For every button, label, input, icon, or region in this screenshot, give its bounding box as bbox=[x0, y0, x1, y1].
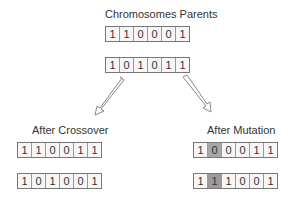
arrow-to-mutation-icon bbox=[183, 75, 211, 112]
gene-cell: 1 bbox=[74, 143, 88, 157]
gene-cell: 0 bbox=[46, 143, 60, 157]
crossover-chromosome-2: 1 0 1 0 0 1 bbox=[17, 173, 102, 189]
mutation-chromosome-1: 1 0 0 0 1 1 bbox=[193, 142, 278, 158]
gene-cell: 1 bbox=[264, 174, 277, 188]
gene-cell: 1 bbox=[18, 174, 32, 188]
crossover-chromosome-1: 1 1 0 0 1 1 bbox=[17, 142, 102, 158]
gene-cell: 1 bbox=[250, 143, 264, 157]
gene-cell: 1 bbox=[222, 174, 236, 188]
gene-cell: 1 bbox=[194, 174, 208, 188]
gene-cell: 1 bbox=[264, 143, 277, 157]
gene-cell: 0 bbox=[74, 174, 88, 188]
mutated-gene-cell: 1 bbox=[208, 174, 222, 188]
gene-cell: 0 bbox=[32, 174, 46, 188]
gene-cell: 1 bbox=[88, 174, 101, 188]
arrow-to-crossover-icon bbox=[95, 77, 124, 115]
mutated-gene-cell: 0 bbox=[208, 143, 222, 157]
mutation-title: After Mutation bbox=[207, 124, 275, 136]
mutation-chromosome-2: 1 1 1 0 0 1 bbox=[193, 173, 278, 189]
arrows bbox=[0, 0, 294, 202]
gene-cell: 1 bbox=[194, 143, 208, 157]
gene-cell: 0 bbox=[236, 143, 250, 157]
gene-cell: 1 bbox=[46, 174, 60, 188]
gene-cell: 0 bbox=[236, 174, 250, 188]
gene-cell: 0 bbox=[222, 143, 236, 157]
gene-cell: 1 bbox=[32, 143, 46, 157]
gene-cell: 0 bbox=[60, 174, 74, 188]
crossover-title: After Crossover bbox=[32, 124, 108, 136]
gene-cell: 0 bbox=[250, 174, 264, 188]
gene-cell: 0 bbox=[60, 143, 74, 157]
gene-cell: 1 bbox=[88, 143, 101, 157]
gene-cell: 1 bbox=[18, 143, 32, 157]
